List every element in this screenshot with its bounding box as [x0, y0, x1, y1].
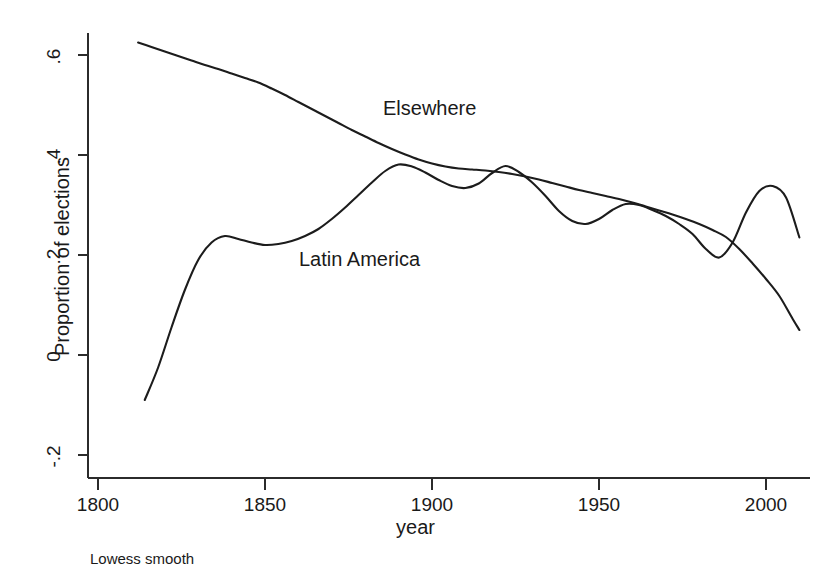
x-tick-label-1900: 1900	[392, 495, 472, 514]
x-axis-title: year	[0, 516, 831, 539]
x-tick-label-1850: 1850	[225, 495, 305, 514]
x-tick-label-1950: 1950	[559, 495, 639, 514]
x-tick-label-2000: 2000	[726, 495, 806, 514]
series-line-latin-america	[145, 164, 800, 400]
series-annotation-latin-america: Latin America	[299, 249, 420, 269]
chart-footnote: Lowess smooth	[90, 550, 194, 567]
chart-figure: .6 .4 .2 0 -.2 1800 1850 1900 1950 2000 …	[0, 0, 831, 583]
x-tick-label-1800: 1800	[58, 495, 138, 514]
y-axis-title: Proportion of elections	[51, 107, 74, 407]
y-tick-label-0.6: .6	[44, 37, 63, 77]
series-annotation-elsewhere: Elsewhere	[383, 98, 476, 118]
y-tick-label-neg0.2: -.2	[44, 437, 63, 477]
series-line-elsewhere	[138, 43, 799, 331]
